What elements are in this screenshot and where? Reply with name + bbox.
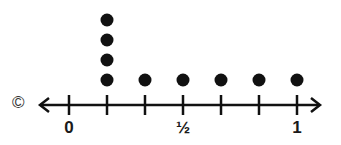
data-dot [101,54,114,67]
tick-label: ½ [176,118,190,138]
dot-plot [0,0,341,145]
data-dot [177,74,190,87]
data-dot [101,34,114,47]
data-dot [139,74,152,87]
data-dot [291,74,304,87]
data-dot [101,74,114,87]
data-dot [253,74,266,87]
tick-label: 0 [64,118,73,138]
data-dots [101,14,304,87]
data-dot [101,14,114,27]
data-dot [215,74,228,87]
tick-label: 1 [292,118,301,138]
number-line [40,98,320,112]
